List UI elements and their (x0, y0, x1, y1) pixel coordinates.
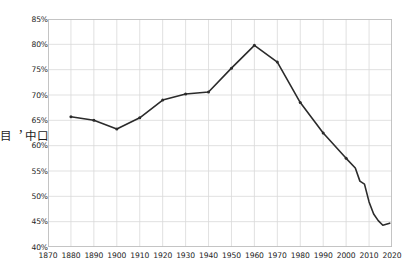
x-tick-label: 2000 (337, 251, 356, 260)
x-tick-label: 1970 (268, 251, 287, 260)
data-point-marker (184, 92, 187, 95)
plot-border (48, 19, 391, 246)
x-tick-label: 1930 (176, 251, 195, 260)
data-point-marker (345, 157, 348, 160)
data-point-marker (230, 67, 233, 70)
data-point-marker (299, 101, 302, 104)
data-point-marker (138, 116, 141, 119)
data-point-marker (92, 119, 95, 122)
data-point-marker (207, 90, 210, 93)
data-series-line (71, 45, 390, 225)
x-tick-label: 1920 (153, 251, 172, 260)
chart-plot-svg (48, 19, 392, 247)
x-tick-label: 1990 (314, 251, 333, 260)
x-tick-label: 2010 (360, 251, 379, 260)
data-point-marker (69, 115, 72, 118)
x-tick-label: 1870 (39, 251, 58, 260)
x-tick-label: 1940 (199, 251, 218, 260)
x-tick-label: 1890 (84, 251, 103, 260)
data-point-marker (161, 99, 164, 102)
chart-container: 30 至 44 歲 成 年 人 口 中 ， 目 前 已 婚 的 人 數 比 例 … (0, 0, 410, 273)
data-point-marker (322, 132, 325, 135)
data-point-marker (115, 127, 118, 130)
x-tick-label: 1980 (291, 251, 310, 260)
x-tick-label: 2020 (383, 251, 402, 260)
plot-area (48, 19, 392, 247)
gridlines (48, 19, 392, 247)
x-tick-label: 1900 (107, 251, 126, 260)
plot-frame (48, 19, 391, 246)
data-point-marker (276, 61, 279, 64)
x-tick-label: 1880 (61, 251, 80, 260)
x-tick-label: 1950 (222, 251, 241, 260)
data-point-marker (253, 44, 256, 47)
x-tick-label: 1960 (245, 251, 264, 260)
x-tick-label: 1910 (130, 251, 149, 260)
